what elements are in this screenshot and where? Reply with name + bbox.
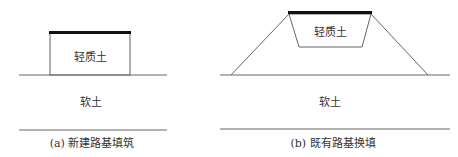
panel-a-fill-label: 轻质土	[74, 48, 107, 64]
panel-b-caption: (b) 既有路基换填	[290, 134, 375, 150]
panel-b-soil-label: 软土	[319, 93, 341, 109]
panel-a-caption: (a) 新建路基填筑	[50, 134, 135, 150]
panel-b-fill-label: 轻质土	[314, 23, 347, 39]
panel-a-drawing	[19, 31, 167, 130]
panel-a-soil-label: 软土	[80, 93, 102, 109]
